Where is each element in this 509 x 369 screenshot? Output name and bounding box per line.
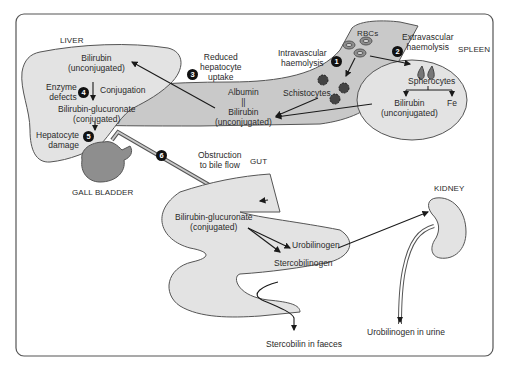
cause-1-label: Intravascularhaemolysis bbox=[278, 48, 327, 68]
liver-bil-gluc-label: Bilirubin-glucuronate(conjugated) bbox=[58, 104, 136, 124]
gut-label: GUT bbox=[250, 157, 267, 167]
spherocytes-label: Spherocytes bbox=[408, 76, 455, 86]
cause-6-label: Obstructionto bile flow bbox=[198, 150, 241, 170]
urobilinogen-label: Urobilinogen bbox=[292, 240, 340, 250]
liver-label: LIVER bbox=[60, 36, 84, 46]
urobilinogen-urine-label: Urobilinogen in urine bbox=[367, 327, 445, 337]
stercobilinogen-label: Stercobilinogen bbox=[274, 258, 333, 268]
cause-6-badge: 6 bbox=[156, 150, 167, 161]
cause-4-badge: 4 bbox=[78, 87, 89, 98]
cause-4-label: Enzymedefects bbox=[46, 82, 77, 102]
conjugation-label: Conjugation bbox=[100, 85, 145, 95]
spleen-bilirubin-label: Bilirubin(unconjugated) bbox=[381, 98, 438, 118]
cause-2-badge: 2 bbox=[392, 46, 403, 57]
gut-bil-gluc-label: Bilirubin-glucuronate(conjugated) bbox=[175, 212, 253, 232]
kidney-label: KIDNEY bbox=[434, 184, 464, 194]
cause-5-badge: 5 bbox=[83, 131, 94, 142]
schistocytes-label: Schistocytes bbox=[283, 88, 331, 98]
cause-1-badge: 1 bbox=[331, 56, 342, 67]
gall-bladder-label: GALL BLADDER bbox=[72, 188, 133, 198]
fe-label: Fe bbox=[447, 98, 457, 108]
cause-2-label: Extravascularhaemolysis bbox=[402, 32, 454, 52]
spleen-label: SPLEEN bbox=[458, 45, 490, 55]
cause-3-label: Reducedhepatocyteuptake bbox=[200, 52, 242, 82]
rbcs-label: RBCs bbox=[357, 29, 378, 39]
liver-bilirubin-label: Bilirubin(unconjugated) bbox=[68, 53, 125, 73]
albumin-bilirubin-label: Albumin||Bilirubin(unconjugated) bbox=[215, 87, 272, 127]
stercobilin-faeces-label: Stercobilin in faeces bbox=[266, 339, 342, 349]
cause-5-label: Hepatocytedamage bbox=[36, 130, 79, 150]
cause-3-badge: 3 bbox=[187, 69, 198, 80]
